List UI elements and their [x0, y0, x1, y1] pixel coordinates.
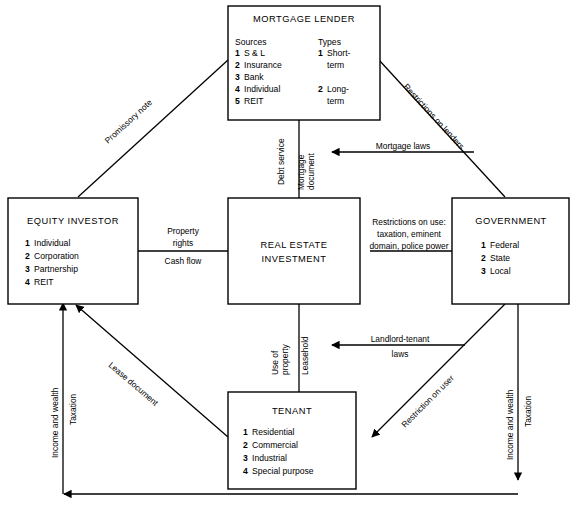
box-government-rect	[452, 198, 569, 304]
government-num-1: 1	[481, 240, 486, 250]
government-num-2: 2	[481, 253, 486, 263]
mortgage-lender-source-num-5: 5	[235, 96, 240, 106]
tenant-label-4: Special purpose	[252, 466, 314, 476]
mortgage-lender-source-num-3: 3	[235, 72, 240, 82]
edge-label-taxation-right: Taxation	[523, 395, 533, 427]
real-estate-relationship-diagram: MORTGAGE LENDER Sources Types 1 S & L 2 …	[0, 0, 577, 516]
edge-label-property-rights-line2: rights	[173, 238, 193, 248]
tenant-label-2: Commercial	[252, 440, 298, 450]
box-real-estate-investment-title-line1: REAL ESTATE	[261, 240, 328, 250]
edge-label-restrictions-on-use-line3: domain, police power	[369, 241, 448, 251]
edge-promissory-note-line	[78, 60, 228, 197]
edge-label-taxation-left: Taxation	[68, 393, 78, 425]
edge-label-restrictions-on-use-line1: Restrictions on use:	[372, 217, 446, 227]
mortgage-lender-source-num-4: 4	[235, 84, 240, 94]
mortgage-lender-source-label-5: REIT	[244, 96, 264, 106]
edge-label-restrictions-on-use-line2: taxation, eminent	[377, 229, 441, 239]
edge-label-promissory-note: Promissory note	[103, 97, 155, 145]
government-num-3: 3	[481, 266, 486, 276]
edge-label-cash-flow: Cash flow	[165, 256, 203, 266]
box-real-estate-investment-title-line2: INVESTMENT	[262, 254, 327, 264]
edge-label-landlord-tenant-laws-line2: laws	[392, 349, 409, 359]
mortgage-lender-source-num-2: 2	[235, 60, 240, 70]
edge-label-leasehold: Leasehold	[300, 336, 310, 375]
box-real-estate-investment[interactable]: REAL ESTATE INVESTMENT	[228, 198, 360, 304]
mortgage-lender-sources-heading: Sources	[235, 37, 267, 47]
equity-investor-label-4: REIT	[34, 277, 54, 287]
government-label-2: State	[490, 253, 510, 263]
diagram-canvas: MORTGAGE LENDER Sources Types 1 S & L 2 …	[0, 0, 577, 516]
mortgage-lender-type-label-2: Long-	[327, 84, 349, 94]
edge-label-income-and-wealth-right: Income and wealth	[505, 389, 515, 460]
equity-investor-num-4: 4	[25, 277, 30, 287]
tenant-num-2: 2	[243, 440, 248, 450]
mortgage-lender-source-label-2: Insurance	[244, 60, 282, 70]
box-real-estate-investment-rect	[228, 198, 360, 304]
mortgage-lender-source-num-1: 1	[235, 48, 240, 58]
box-mortgage-lender[interactable]: MORTGAGE LENDER Sources Types 1 S & L 2 …	[228, 6, 380, 120]
edge-label-mortgage-laws: Mortgage laws	[376, 141, 430, 151]
edge-lease-document-line	[76, 305, 228, 437]
mortgage-lender-type-label-2-cont: term	[327, 96, 344, 106]
mortgage-lender-types-heading: Types	[318, 37, 341, 47]
equity-investor-label-2: Corporation	[34, 251, 79, 261]
box-tenant-title: TENANT	[272, 406, 312, 416]
mortgage-lender-type-num-2: 2	[318, 84, 323, 94]
edge-label-income-and-wealth-left: Income and wealth	[50, 387, 60, 458]
tenant-label-1: Residential	[252, 427, 295, 437]
government-label-1: Federal	[490, 240, 519, 250]
box-equity-investor[interactable]: EQUITY INVESTOR 1 Individual 2 Corporati…	[8, 198, 138, 304]
equity-investor-label-1: Individual	[34, 238, 70, 248]
edge-label-mortgage-document-line2: document	[306, 153, 316, 190]
equity-investor-num-3: 3	[25, 264, 30, 274]
tenant-label-3: Industrial	[252, 453, 287, 463]
edge-label-landlord-tenant-laws-line1: Landlord-tenant	[371, 334, 430, 344]
tenant-num-1: 1	[243, 427, 248, 437]
box-government-title: GOVERNMENT	[475, 216, 547, 226]
box-government[interactable]: GOVERNMENT 1 Federal 2 State 3 Local	[452, 198, 569, 304]
edge-label-mortgage-document-line1: Mortgage	[296, 154, 306, 190]
mortgage-lender-source-label-4: Individual	[244, 84, 280, 94]
mortgage-lender-type-num-1: 1	[318, 48, 323, 58]
government-label-3: Local	[490, 266, 511, 276]
equity-investor-num-2: 2	[25, 251, 30, 261]
mortgage-lender-source-label-3: Bank	[244, 72, 264, 82]
box-equity-investor-title: EQUITY INVESTOR	[27, 216, 119, 226]
mortgage-lender-type-label-1: Short-	[327, 48, 351, 58]
tenant-num-3: 3	[243, 453, 248, 463]
edge-label-debt-service: Debt service	[276, 138, 286, 185]
edge-label-use-of-property-line1: Use of	[270, 350, 280, 375]
mortgage-lender-type-label-1-cont: term	[327, 60, 344, 70]
mortgage-lender-source-label-1: S & L	[244, 48, 265, 58]
edge-restriction-on-user-line	[372, 304, 505, 437]
box-mortgage-lender-title: MORTGAGE LENDER	[253, 14, 355, 24]
tenant-num-4: 4	[243, 466, 248, 476]
edge-label-lease-document: Lease document	[107, 360, 161, 408]
edge-label-property-rights-line1: Property	[167, 226, 199, 236]
edge-label-use-of-property-line2: property	[280, 343, 290, 375]
box-tenant[interactable]: TENANT 1 Residential 2 Commercial 3 Indu…	[228, 392, 356, 489]
equity-investor-num-1: 1	[25, 238, 30, 248]
equity-investor-label-3: Partnership	[34, 264, 78, 274]
